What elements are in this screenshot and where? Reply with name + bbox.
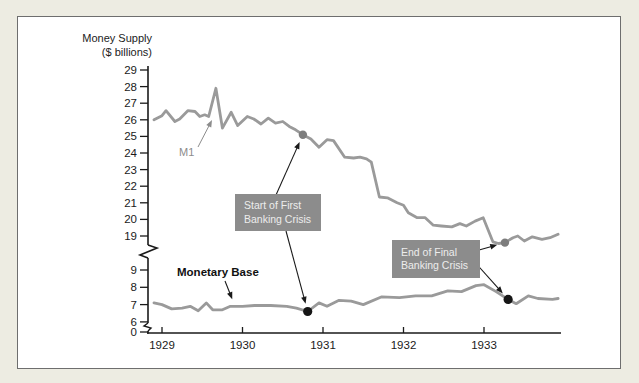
m1-line: [154, 88, 558, 243]
x-axis-tick-label: 1933: [471, 339, 497, 351]
chart-title-line1: Money Supply: [54, 31, 152, 45]
y-axis-tick-label: 22: [124, 180, 137, 192]
x-axis-tick-label: 1929: [149, 339, 175, 351]
y-axis-tick-label: 24: [124, 147, 137, 159]
y-axis-tick-label: 23: [124, 164, 137, 176]
y-axis-tick-label: 28: [124, 81, 137, 93]
monetary-base-line: [154, 285, 558, 312]
chart-title-line2: ($ billions): [54, 45, 152, 59]
y-axis-tick-label: 21: [124, 197, 137, 209]
y-axis-tick-label: 9: [131, 264, 137, 276]
m1-series-label: M1: [179, 146, 194, 158]
start-crisis-arrow-to-base-head: [301, 296, 306, 303]
start-crisis-line1: Start of First: [244, 199, 321, 213]
end-crisis-annotation: End of Final Banking Crisis: [392, 240, 480, 278]
page-background: 2928272625242322212019987601929193019311…: [0, 0, 639, 383]
start-crisis-arrow-to-base: [286, 231, 304, 299]
monetary-base-pointer-arrow-head: [227, 292, 232, 300]
y-axis-tick-label: 19: [124, 230, 137, 242]
end-crisis-line2: Banking Crisis: [401, 259, 480, 273]
crisis-marker-dot: [501, 238, 509, 246]
y-axis-zero-break: [144, 323, 151, 331]
x-axis-tick-label: 1930: [230, 339, 256, 351]
start-crisis-arrow-to-m1: [276, 147, 298, 195]
monetary-base-series-label: Monetary Base: [177, 266, 259, 278]
chart-title: Money Supply ($ billions): [54, 31, 152, 59]
monetary-base-pointer-arrow: [225, 281, 230, 295]
m1-pointer-arrow-head: [206, 120, 212, 128]
end-crisis-arrow-to-m1-head: [490, 244, 497, 249]
start-crisis-line2: Banking Crisis: [244, 213, 321, 227]
y-axis-tick-label: 27: [124, 97, 137, 109]
end-crisis-line1: End of Final: [401, 246, 480, 260]
crisis-marker-dot: [504, 295, 513, 304]
y-axis-tick-label: 26: [124, 114, 137, 126]
y-axis-tick-label: 8: [131, 281, 137, 293]
y-axis-break: [140, 245, 157, 258]
m1-pointer-arrow: [198, 124, 210, 147]
x-axis-tick-label: 1931: [310, 339, 336, 351]
y-axis-tick-label: 25: [124, 130, 137, 142]
start-crisis-annotation: Start of First Banking Crisis: [235, 194, 321, 231]
y-axis-tick-label: 29: [124, 64, 137, 76]
x-axis-tick-label: 1932: [391, 339, 417, 351]
y-axis-tick-label: 0: [131, 326, 137, 338]
y-axis-tick-label: 7: [131, 299, 137, 311]
y-axis-tick-label: 20: [124, 213, 137, 225]
crisis-marker-dot: [299, 131, 307, 139]
crisis-marker-dot: [303, 307, 312, 316]
start-crisis-arrow-to-m1-head: [294, 142, 299, 150]
